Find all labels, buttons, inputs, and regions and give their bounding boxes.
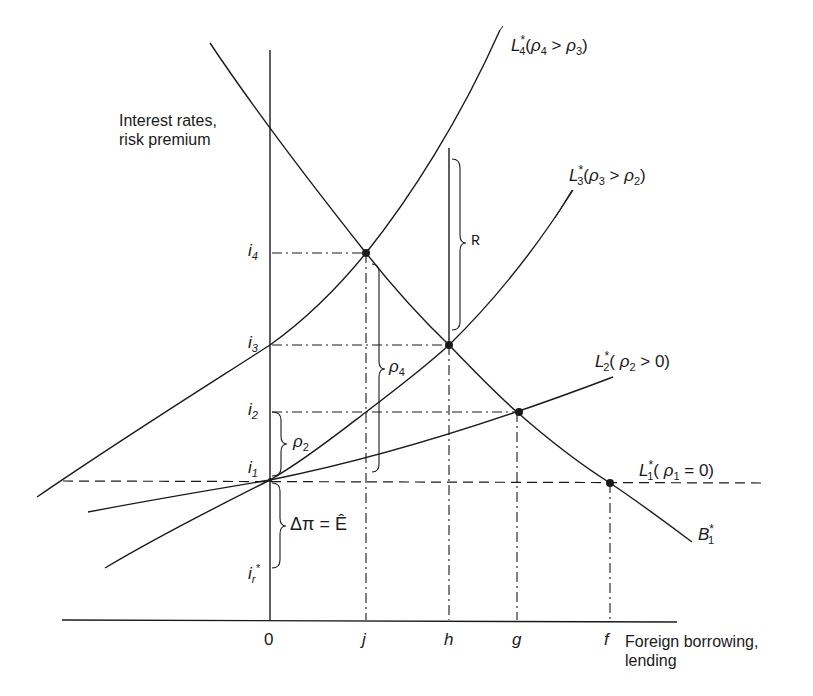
x-axis-title-line1: Foreign borrowing, [625,632,758,651]
curve-L3 [105,190,573,568]
L4-op: > [547,36,566,55]
curve-L2 [88,377,613,512]
L1-op: = 0) [680,461,715,480]
y-tick-i1-sub: 1 [252,467,258,479]
x-axis [62,620,677,622]
y-tick-i3-sub: 3 [252,342,258,354]
origin-intersection [268,478,272,482]
annotation-R: R [471,233,480,250]
y-axis-title-line2: risk premium [119,130,217,149]
B1-sub: 1 [708,534,714,546]
L3-rho-a: ρ [589,166,599,185]
label-L2: L*2( ρ2 > 0) [595,349,670,373]
label-L4: L*4(ρ4 > ρ3) [511,33,588,57]
equilibrium-point-g-i2 [515,408,523,416]
leader-L4 [500,26,503,30]
x-tick-f: f [604,630,609,650]
y-tick-ir-sup: * [255,562,259,574]
curve-L4 [37,30,500,497]
rho4-base: ρ [389,357,399,376]
x-tick-0: 0 [264,630,273,650]
L3-op: > [605,166,624,185]
x-tick-j: j [362,630,366,650]
y-tick-i3: i3 [248,333,258,354]
y-tick-ir-sub: r [252,573,256,585]
rho4-sub: 4 [399,366,405,378]
rho2-base: ρ [293,432,303,451]
y-tick-i1: i1 [248,458,258,479]
L4-rho-a: ρ [531,36,541,55]
rho2-brace [272,412,287,476]
L1-open: ( [653,461,663,480]
rho4-brace [372,264,385,472]
L1-rho-a: ρ [664,461,674,480]
equilibrium-point-j-i4 [362,249,370,257]
x-axis-title: Foreign borrowing, lending [625,632,758,670]
x-axis-title-line2: lending [625,651,758,670]
L2-open: ( [609,352,619,371]
diagram-graphics [0,0,813,696]
L3-close: ) [640,166,646,185]
label-L3: L*3(ρ3 > ρ2) [569,163,646,187]
equilibrium-point-f-i1 [606,479,614,487]
y-axis-title-line1: Interest rates, [119,111,217,130]
annotation-rho2: ρ2 [293,432,309,453]
L3-rho-b: ρ [624,166,634,185]
label-B1: B*1 [698,522,714,546]
L4-close: ) [582,36,588,55]
L2-rho-a: ρ [620,352,630,371]
R-brace [452,159,466,330]
annotation-rho4: ρ4 [389,357,405,378]
rho2-sub: 2 [303,441,309,453]
y-tick-i2-sub: 2 [252,409,258,421]
y-tick-i4: i4 [248,241,258,262]
leader-L3 [555,190,572,218]
label-L1: L*1( ρ1 = 0) [639,458,714,482]
y-tick-ir-star: ir* [248,562,260,585]
diagram-canvas: Interest rates, risk premium Foreign bor… [0,0,813,696]
delta-brace [272,483,286,568]
x-tick-g: g [512,630,521,650]
equilibrium-point-h-i3 [445,341,453,349]
y-tick-i4-sub: 4 [252,250,258,262]
y-axis-title: Interest rates, risk premium [119,111,217,149]
L2-op: > 0) [636,352,671,371]
L4-rho-b: ρ [566,36,576,55]
y-tick-i2: i2 [248,400,258,421]
curve-B1 [210,43,692,542]
x-tick-h: h [444,630,453,650]
annotation-delta-pi-equals-e-hat: Δπ = Ê [290,514,347,535]
